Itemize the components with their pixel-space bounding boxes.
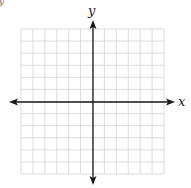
corner-label-fragment: y xyxy=(0,0,5,7)
y-axis-label: y xyxy=(87,3,96,18)
coordinate-plane: y y x xyxy=(0,0,191,188)
x-axis-label: x xyxy=(178,94,186,109)
x-axis xyxy=(9,99,175,106)
